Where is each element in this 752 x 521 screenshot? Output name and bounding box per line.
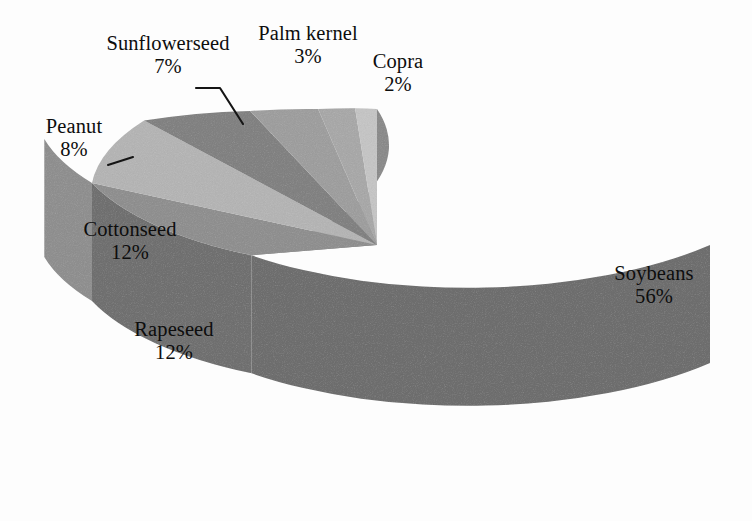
slice-label-soybeans: Soybeans 56% <box>586 262 722 308</box>
slice-label-name: Rapeseed <box>102 318 246 341</box>
slice-label-value: 7% <box>78 55 258 78</box>
slice-label-name: Cottonseed <box>48 218 212 241</box>
slice-label-value: 12% <box>48 241 212 264</box>
pie-chart-figure: Sunflowerseed 7% Palm kernel 3% Copra 2%… <box>0 0 752 521</box>
slice-label-copra: Copra 2% <box>348 50 448 96</box>
slice-label-sunflowerseed: Sunflowerseed 7% <box>78 32 258 78</box>
slice-label-peanut: Peanut 8% <box>18 115 130 161</box>
slice-label-name: Copra <box>348 50 448 73</box>
slice-label-value: 12% <box>102 341 246 364</box>
slice-label-value: 2% <box>348 73 448 96</box>
slice-label-value: 8% <box>18 138 130 161</box>
slice-label-rapeseed: Rapeseed 12% <box>102 318 246 364</box>
slice-label-name: Soybeans <box>586 262 722 285</box>
slice-label-cottonseed: Cottonseed 12% <box>48 218 212 264</box>
slice-label-name: Peanut <box>18 115 130 138</box>
slice-label-value: 3% <box>256 45 360 68</box>
slice-label-palm-kernel: Palm kernel 3% <box>256 22 360 68</box>
slice-label-name: Palm kernel <box>256 22 360 45</box>
slice-label-value: 56% <box>586 285 722 308</box>
slice-label-name: Sunflowerseed <box>78 32 258 55</box>
